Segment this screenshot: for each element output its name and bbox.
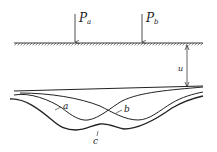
curve-b-label: b xyxy=(116,104,130,114)
curve-a xyxy=(14,87,203,120)
dimension-u: u xyxy=(178,45,189,87)
svg-text:c: c xyxy=(93,136,98,146)
svg-text:Pa: Pa xyxy=(78,11,91,26)
deflection-diagram: Pa Pb u a b c xyxy=(0,0,217,152)
load-pa: Pa xyxy=(75,11,91,42)
svg-text:b: b xyxy=(124,104,130,114)
svg-text:a: a xyxy=(63,101,68,111)
svg-text:Pb: Pb xyxy=(145,11,159,26)
load-pb-subscript: b xyxy=(154,18,159,26)
ground-surface xyxy=(14,43,203,46)
reference-line xyxy=(14,86,203,91)
curve-a-label: a xyxy=(55,101,68,111)
curve-c-label: c xyxy=(93,131,98,146)
load-pa-subscript: a xyxy=(87,18,91,26)
curve-c xyxy=(10,96,203,130)
dimension-label: u xyxy=(178,64,183,73)
load-pb: Pb xyxy=(142,11,159,42)
